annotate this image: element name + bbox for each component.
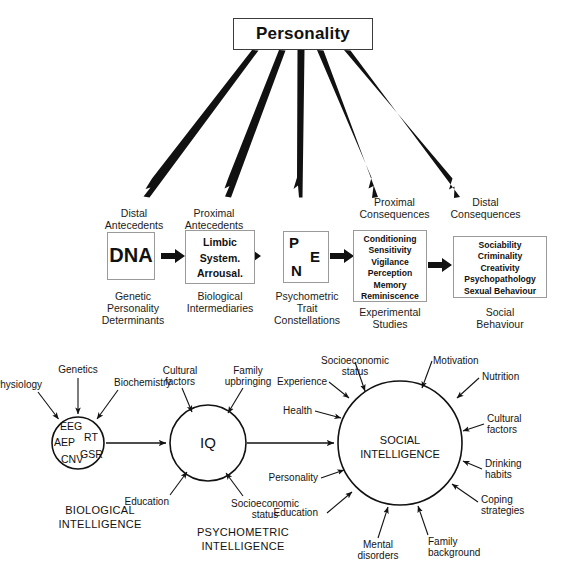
stage-bottom-label-proximal-consequences: Experimental Studies bbox=[350, 306, 430, 330]
social-input-motivation: Motivation bbox=[433, 355, 479, 366]
node-box-pen: P E N bbox=[283, 231, 329, 283]
social-input-health: Health bbox=[283, 405, 312, 416]
iq-input-family-upbringing: Family upbringing bbox=[225, 365, 272, 388]
bio-tag-rt: RT bbox=[84, 431, 98, 443]
social-input-family-background: Family background bbox=[428, 536, 480, 559]
social-intelligence-label: SOCIAL INTELLIGENCE bbox=[350, 434, 450, 461]
caption-biological-intelligence: BIOLOGICAL INTELLIGENCE bbox=[35, 504, 165, 531]
stage-bottom-label-limbic: Biological Intermediaries bbox=[180, 290, 260, 314]
node-box-dna: DNA bbox=[107, 232, 155, 280]
node-box-proximal-consequences: Conditioning Sensitivity Vigilance Perce… bbox=[353, 230, 427, 302]
social-input-mental-disorders: Mental disorders bbox=[357, 539, 398, 562]
stage-top-label-proximal-consequences: Proximal Consequences bbox=[352, 196, 437, 220]
node-box-dna-label: DNA bbox=[108, 233, 154, 277]
psychometric-intelligence-label: IQ bbox=[188, 434, 228, 451]
bio-tag-aep: AEP bbox=[54, 436, 75, 448]
stage-top-label-distal-consequences: Distal Consequences bbox=[443, 196, 528, 220]
stage-bottom-label-pen: Psychometric Trait Constellations bbox=[266, 290, 348, 327]
social-input-experience: Experience bbox=[277, 376, 327, 387]
bio-tag-eeg: EEG bbox=[60, 420, 82, 432]
bio-input-physiology: Physiology bbox=[0, 379, 42, 390]
social-input-drinking-habits: Drinking habits bbox=[485, 458, 522, 481]
social-input-socioeconomic-status: Socioeconomic status bbox=[321, 355, 389, 378]
social-input-education: Education bbox=[274, 507, 318, 518]
node-box-distal-consequences-label: Sociability Criminality Creativity Psych… bbox=[454, 237, 546, 297]
stage-top-label-limbic: Proximal Antecedents bbox=[174, 207, 254, 231]
fan-arrows bbox=[144, 50, 461, 198]
biological-input-arrows bbox=[38, 378, 118, 419]
personality-intelligence-diagram: Personality bbox=[0, 0, 569, 578]
bio-tag-gsr: GSR bbox=[80, 448, 103, 460]
caption-psychometric-intelligence: PSYCHOMETRIC INTELLIGENCE bbox=[168, 526, 318, 553]
stage-bottom-label-dna: Genetic Personality Determinants bbox=[94, 290, 172, 327]
node-box-limbic: Limbic System. Arrousal. bbox=[185, 230, 255, 284]
bio-input-genetics: Genetics bbox=[58, 364, 97, 375]
iq-input-cultural-factors: Cultural factors bbox=[163, 365, 197, 388]
social-input-nutrition: Nutrition bbox=[482, 371, 519, 382]
stage-bottom-label-distal-consequences: Social Behaviour bbox=[456, 306, 544, 330]
social-input-personality: Personality bbox=[269, 472, 318, 483]
node-box-distal-consequences: Sociability Criminality Creativity Psych… bbox=[453, 236, 547, 298]
node-box-proximal-consequences-label: Conditioning Sensitivity Vigilance Perce… bbox=[354, 231, 426, 302]
pen-letter-n: N bbox=[291, 262, 302, 279]
node-box-limbic-label: Limbic System. Arrousal. bbox=[186, 231, 254, 282]
pen-letter-e: E bbox=[310, 248, 320, 265]
stage-top-label-dna: Distal Antecedents bbox=[100, 207, 168, 231]
pen-letter-p: P bbox=[289, 234, 299, 251]
social-input-cultural-factors: Cultural factors bbox=[487, 413, 521, 436]
social-input-coping-strategies: Coping strategies bbox=[481, 494, 524, 517]
bio-tag-cnv: CNV bbox=[61, 453, 83, 465]
